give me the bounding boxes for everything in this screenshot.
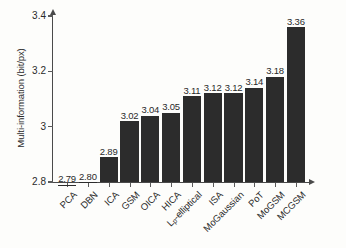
y-tick-label: 2.8 (6, 176, 46, 187)
bar-value-label: 3.14 (241, 76, 267, 87)
x-tick-mark (192, 183, 193, 187)
bar-value-label: 3.05 (158, 101, 184, 112)
bar-dbn (79, 182, 97, 183)
x-axis-arrow (309, 179, 315, 185)
y-tick-label: 3 (6, 121, 46, 132)
bar-mcgsm (287, 27, 305, 182)
x-tick-mark (150, 183, 151, 187)
y-tick-mark (48, 71, 53, 72)
bar-mogaussian (224, 93, 242, 182)
bar-value-label: 3.18 (262, 65, 288, 76)
x-tick-mark (88, 183, 89, 187)
bar-value-label: 3.36 (283, 16, 309, 27)
x-tick-mark (171, 183, 172, 187)
y-tick-mark (48, 15, 53, 16)
y-tick-mark (48, 181, 53, 182)
bar-value-label: 2.89 (96, 146, 122, 157)
y-tick-mark (48, 126, 53, 127)
bar-mogsm (266, 77, 284, 182)
bar-lp-elliptical (183, 96, 201, 182)
x-tick-mark (130, 183, 131, 187)
bar-hica (162, 113, 180, 182)
x-tick-mark (234, 183, 235, 187)
bar-value-label: 2.80 (75, 171, 101, 182)
bar-pca (58, 185, 76, 186)
bar-oica (141, 116, 159, 182)
x-tick-mark (254, 183, 255, 187)
y-axis-label: Multi-information (bit/px) (14, 15, 28, 181)
x-tick-mark (109, 183, 110, 187)
y-axis-line (52, 14, 53, 183)
bar-isa (204, 93, 222, 182)
x-tick-mark (213, 183, 214, 187)
multi-information-bar-chart: Multi-information (bit/px) 2.833.23.4 2.… (0, 0, 346, 248)
y-axis-arrow (50, 9, 56, 15)
bar-pot (245, 88, 263, 182)
y-tick-label: 3.2 (6, 65, 46, 76)
x-tick-mark (275, 183, 276, 187)
x-tick-mark (296, 183, 297, 187)
y-tick-label: 3.4 (6, 10, 46, 21)
bar-gsm (120, 121, 138, 182)
bar-ica (100, 157, 118, 182)
